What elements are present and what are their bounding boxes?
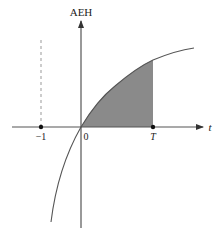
curve: [51, 48, 194, 222]
x-axis-label: t: [208, 121, 212, 133]
y-axis-label: AEH: [70, 6, 93, 18]
shaded-area: [81, 60, 153, 127]
plot-canvas: AEH t −1 0 T: [0, 0, 222, 237]
point-neg-one: [39, 125, 43, 129]
diagram: AEH t −1 0 T: [0, 0, 222, 237]
tick-label-neg-one: −1: [36, 131, 47, 142]
tick-label-zero: 0: [84, 131, 89, 142]
point-T: [151, 125, 155, 129]
tick-label-T: T: [150, 131, 157, 142]
